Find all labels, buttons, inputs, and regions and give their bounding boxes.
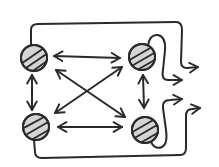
edge-diagonal-bl-tr xyxy=(55,67,122,113)
node-bottom-right xyxy=(129,117,161,146)
output-path-bottom-left xyxy=(34,108,200,158)
node-top-left xyxy=(18,45,50,77)
edge-diagonal-tl-br xyxy=(56,70,125,117)
node-top-right xyxy=(126,44,158,73)
diagram-svg xyxy=(0,0,219,167)
network-diagram xyxy=(0,0,219,167)
edge-top xyxy=(54,56,120,58)
output-path-top-left xyxy=(31,22,198,68)
edge-right xyxy=(143,75,144,108)
node-bottom-left xyxy=(20,114,52,143)
